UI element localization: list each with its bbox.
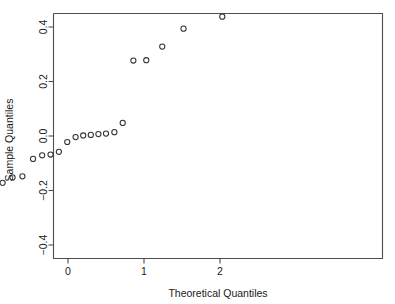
y-tick-label: −0.4 [37,234,49,255]
x-axis-title: Theoretical Quantiles [168,287,267,299]
y-tick-label: −0.2 [37,180,49,201]
x-tick-label: 2 [217,265,223,277]
y-tick-label: 0.2 [37,74,49,89]
y-tick-label: 0.4 [37,20,49,35]
x-tick-label: 0 [65,265,71,277]
qq-plot-canvas: −0.4−0.20.00.20.4 −2−1012 Theoretical Qu… [0,0,395,304]
x-tick-label: 1 [141,265,147,277]
y-axis-title: Sample Quantiles [3,99,15,182]
qq-plot-figure: −0.4−0.20.00.20.4 −2−1012 Theoretical Qu… [0,0,395,304]
y-tick-label: 0.0 [37,129,49,144]
